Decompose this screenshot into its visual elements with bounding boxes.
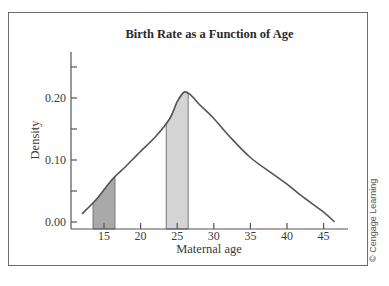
y-tick-label: 0.00 [45, 215, 66, 229]
density-curve [82, 92, 335, 222]
x-tick-label: 15 [98, 229, 110, 243]
x-tick-label: 40 [281, 229, 293, 243]
y-tick-label: 0.10 [45, 153, 66, 167]
x-axis-label: Maternal age [176, 242, 242, 256]
shaded-region-dark [93, 177, 115, 229]
shaded-region-light [166, 92, 188, 229]
x-ticks: 15202530354045 [98, 223, 330, 243]
y-axis-label: Density [28, 120, 42, 160]
y-tick-label: 0.20 [45, 91, 66, 105]
x-tick-label: 25 [171, 229, 183, 243]
x-tick-label: 35 [244, 229, 256, 243]
shaded-regions [93, 92, 188, 229]
copyright-credit: © Cengage Learning [368, 179, 378, 262]
x-tick-label: 20 [135, 229, 147, 243]
y-ticks: 0.000.100.20 [45, 67, 77, 229]
x-tick-label: 30 [208, 229, 220, 243]
x-tick-label: 45 [318, 229, 330, 243]
plot-area: 0.000.100.20 15202530354045 Maternal age… [0, 0, 389, 286]
